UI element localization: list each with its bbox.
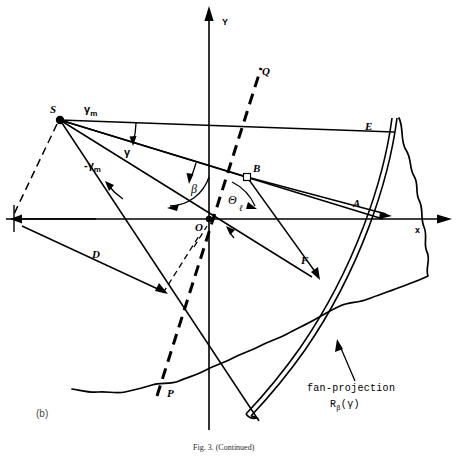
- angle-label-gamma-max: γm: [84, 104, 97, 118]
- detector-arc: [246, 118, 397, 418]
- y-axis-arrowhead: [204, 6, 213, 21]
- figure-caption: Fig. 3. (Continued): [193, 444, 254, 452]
- distance-label-d: D: [92, 249, 100, 260]
- x-axis-label: x: [415, 226, 420, 235]
- y-axis-label: Y: [222, 18, 228, 27]
- point-label-p: P: [167, 388, 174, 399]
- axis-group: [6, 6, 452, 430]
- fan-projection-leader: [335, 339, 355, 381]
- source-point-marker: [56, 116, 64, 124]
- gamma-max-subscript: m: [90, 109, 97, 118]
- angle-label-beta: β: [191, 183, 197, 195]
- angle-label-gamma-min: -γm: [84, 160, 101, 174]
- scanned-object-outline: [72, 118, 428, 393]
- panel-label: (b): [36, 409, 48, 419]
- gamma-min-subscript: m: [94, 165, 101, 174]
- segment-b-to-f: [247, 177, 320, 280]
- point-label-a: A: [353, 198, 360, 209]
- gamma-min-base: -γ: [84, 159, 94, 171]
- point-b-marker: [244, 174, 251, 181]
- point-label-o: O: [195, 222, 203, 233]
- segment-b-to-a: [247, 177, 392, 219]
- angle-label-theta: Θ: [228, 194, 237, 206]
- ray-label-f: F: [301, 255, 308, 266]
- point-label-s: S: [50, 104, 56, 115]
- fan-projection-symbol: Rβ(γ): [330, 400, 360, 412]
- angle-label-gamma: γ: [124, 147, 130, 158]
- point-label-e: E: [365, 121, 372, 132]
- figure-container: Y x S O E A B P Q D F γm γ -γm β Θ ℓ fan…: [0, 0, 464, 456]
- perpendicular-distance-label: ℓ: [239, 204, 243, 213]
- projection-symbol-arg: (γ): [341, 399, 360, 410]
- x-axis-arrowhead: [437, 214, 452, 223]
- point-label-q: Q: [262, 66, 270, 77]
- point-label-b: B: [253, 163, 260, 174]
- ray-s-to-e: [60, 120, 394, 132]
- fan-projection-label: fan-projection: [307, 384, 395, 394]
